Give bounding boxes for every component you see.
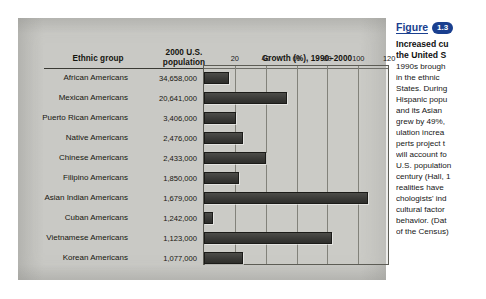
figure-number-badge: 1.3 xyxy=(432,22,453,34)
growth-bar xyxy=(204,232,332,244)
growth-bar xyxy=(204,132,243,144)
row-ethnic-group-label: Filipino Americans xyxy=(22,173,128,182)
figure-word: Figure xyxy=(396,22,428,34)
table-row: Korean Americans1,077,000 xyxy=(0,248,486,268)
row-population-value: 2,476,000 xyxy=(134,134,197,143)
row-population-value: 3,406,000 xyxy=(134,114,197,123)
growth-bar xyxy=(204,152,266,164)
row-ethnic-group-label: Native Americans xyxy=(22,133,128,142)
row-population-value: 1,679,000 xyxy=(134,194,197,203)
column-header-ethnic-group: Ethnic group xyxy=(50,54,146,64)
growth-bar xyxy=(204,172,239,184)
row-population-value: 1,242,000 xyxy=(134,214,197,223)
page-root: Ethnic group 2000 U.S. population Growth… xyxy=(0,0,486,299)
row-ethnic-group-label: Vietnamese Americans xyxy=(22,233,128,242)
row-population-value: 34,658,000 xyxy=(134,74,197,83)
row-population-value: 1,123,000 xyxy=(134,234,197,243)
caption-title-line2: the United S xyxy=(396,50,486,61)
row-ethnic-group-label: Asian Indian Americans xyxy=(22,193,128,202)
row-population-value: 1,850,000 xyxy=(134,174,197,183)
growth-bar xyxy=(204,92,287,104)
growth-bar xyxy=(204,72,229,84)
row-ethnic-group-label: Chinese Americans xyxy=(22,153,128,162)
growth-bar xyxy=(204,252,243,264)
row-ethnic-group-label: Cuban Americans xyxy=(22,213,128,222)
caption-body: 1990s brough in the ethnic States. Durin… xyxy=(396,61,486,237)
row-population-value: 20,641,000 xyxy=(134,94,197,103)
row-ethnic-group-label: Korean Americans xyxy=(22,253,128,262)
growth-bar xyxy=(204,112,236,124)
growth-bar xyxy=(204,192,368,204)
figure-caption: Figure 1.3 Increased cu the United S 199… xyxy=(396,22,486,237)
row-population-value: 1,077,000 xyxy=(134,254,197,263)
row-ethnic-group-label: African Americans xyxy=(22,73,128,82)
row-ethnic-group-label: Mexican Americans xyxy=(22,93,128,102)
row-ethnic-group-label: Puerto Rican Americans xyxy=(22,113,128,122)
figure-label-line: Figure 1.3 xyxy=(396,22,486,34)
growth-bar xyxy=(204,212,213,224)
row-population-value: 2,433,000 xyxy=(134,154,197,163)
caption-title-line1: Increased cu xyxy=(396,39,486,50)
column-header-growth: Growth (%), 1990–2000 xyxy=(221,54,393,64)
caption-title: Increased cu the United S xyxy=(396,39,486,60)
